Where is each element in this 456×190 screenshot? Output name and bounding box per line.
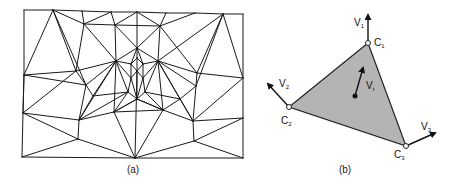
mesh-edge — [84, 24, 116, 61]
mesh-edge — [84, 12, 111, 24]
mesh-edge — [131, 71, 137, 78]
mesh-edge — [78, 120, 79, 139]
mesh-edge — [163, 99, 180, 110]
mesh-edge — [114, 112, 135, 158]
mesh-edge — [131, 64, 137, 71]
vector-label-v3: V3 — [421, 121, 432, 133]
mesh-edge — [135, 71, 137, 158]
mesh-edge — [115, 25, 137, 48]
panel-b-caption: (b) — [339, 164, 351, 175]
panel-b-triangle: V1V2V3VtC1C2C3 — [268, 15, 435, 161]
mesh-edge — [82, 11, 111, 12]
mesh-edge — [145, 61, 158, 92]
mesh-edge — [194, 141, 243, 158]
mesh-edge — [137, 48, 158, 61]
figure-canvas: (a) V1V2V3VtC1C2C3 (b) — [0, 0, 456, 190]
mesh-edge — [82, 11, 84, 24]
mesh-edge — [111, 12, 115, 25]
mesh-edge — [193, 86, 196, 121]
mesh-edge — [180, 86, 196, 99]
panel-a-caption: (a) — [127, 164, 139, 175]
mesh-edge — [193, 118, 243, 121]
corner-node-icon — [287, 105, 292, 110]
corner-label-c3: C3 — [394, 149, 405, 161]
panel-a-mesh — [22, 10, 243, 158]
mesh-edge — [180, 99, 193, 121]
mesh-edge — [114, 99, 137, 112]
corner-label-c2: C2 — [281, 115, 292, 127]
velocity-arrow-icon — [406, 133, 435, 146]
mesh-edge — [53, 10, 82, 11]
mesh-edge — [86, 85, 93, 96]
triangle-element — [289, 43, 406, 146]
mesh-edge — [158, 14, 223, 61]
mesh-edge — [137, 12, 166, 13]
centroid-dot-icon — [353, 94, 358, 99]
mesh-edge — [76, 24, 84, 71]
mesh-edge — [193, 121, 194, 141]
mesh-edge — [163, 110, 193, 121]
vector-label-v1: V1 — [354, 17, 365, 29]
mesh-edge — [137, 26, 160, 48]
mesh-edge — [24, 71, 76, 75]
mesh-edge — [114, 110, 163, 112]
mesh-edge — [22, 113, 23, 157]
corner-label-c1: C1 — [374, 37, 385, 49]
mesh-edge — [137, 12, 160, 26]
mesh-edge — [115, 12, 137, 25]
mesh-edge — [116, 61, 128, 92]
mesh-edge — [79, 112, 114, 120]
mesh-edge — [128, 78, 131, 92]
mesh-edge — [223, 14, 243, 78]
vector-label-v2: V2 — [279, 78, 290, 90]
mesh-edge — [23, 71, 76, 113]
mesh-edge — [114, 61, 116, 112]
mesh-edge — [22, 139, 78, 157]
mesh-edge — [137, 64, 143, 71]
mesh-edge — [197, 73, 243, 78]
corner-node-icon — [366, 41, 371, 46]
mesh-edge — [194, 118, 243, 141]
mesh-edge — [193, 78, 243, 121]
mesh-edge — [115, 25, 116, 61]
mesh-edge — [114, 92, 128, 112]
mesh-edge — [116, 48, 137, 61]
mesh-edge — [78, 139, 135, 158]
mesh-edge — [53, 10, 86, 85]
mesh-edge — [195, 13, 223, 14]
mesh-edge — [137, 99, 163, 110]
mesh-edge — [79, 92, 128, 120]
mesh-edge — [84, 24, 115, 25]
mesh-edge — [137, 71, 143, 78]
mesh-edge — [23, 75, 24, 113]
mesh-edge — [158, 26, 160, 61]
mesh-edge — [22, 157, 135, 158]
corner-node-icon — [404, 144, 409, 149]
mesh-edge — [24, 10, 53, 75]
mesh-edge — [24, 75, 86, 85]
mesh-edge — [143, 78, 145, 92]
mesh-edge — [115, 25, 160, 26]
